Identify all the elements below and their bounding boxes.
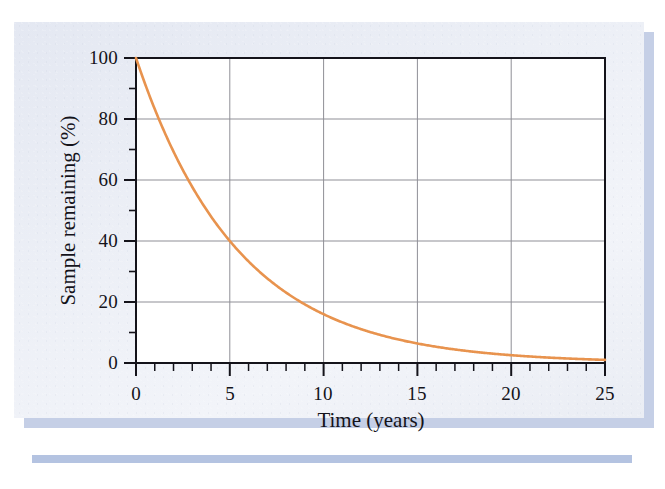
- figure-root: 100 80 60 40 20 0 0 5 10 15 20 25 Time (…: [0, 0, 665, 489]
- y-axis-title: Sample remaining (%): [56, 81, 81, 341]
- x-tick-label-5: 5: [210, 383, 250, 405]
- card-bottom-shadow-bar: [32, 455, 632, 463]
- x-tick-label-0: 0: [116, 383, 156, 405]
- x-axis-title: Time (years): [136, 408, 606, 433]
- x-tick-label-10: 10: [303, 383, 343, 405]
- x-tick-label-15: 15: [397, 383, 437, 405]
- y-tick-label-0: 0: [68, 352, 118, 374]
- x-tick-label-20: 20: [491, 383, 531, 405]
- x-tick-label-25: 25: [585, 383, 625, 405]
- y-tick-label-100: 100: [68, 47, 118, 69]
